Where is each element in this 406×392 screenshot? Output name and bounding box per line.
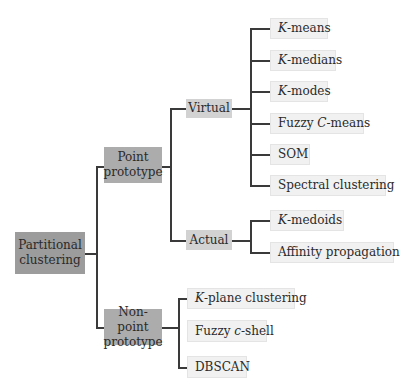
leaf-fuzzy-c-means: Fuzzy C-means <box>270 113 364 134</box>
root-node-partitional-clustering: Partitional clustering <box>15 232 85 274</box>
leaf-text: -modes <box>287 84 331 99</box>
leaf-text: -shell <box>241 324 274 339</box>
connector <box>250 91 270 93</box>
leaf-prefix: Fuzzy <box>278 116 317 131</box>
connector <box>170 108 186 110</box>
point-prototype-line2: prototype <box>103 165 162 180</box>
node-virtual: Virtual <box>186 99 232 118</box>
leaf-italic: K <box>278 213 287 228</box>
non-point-prototype-line1: Non-point <box>104 305 162 335</box>
actual-label: Actual <box>190 233 229 248</box>
connector <box>96 166 98 328</box>
leaf-italic: K <box>278 84 287 99</box>
leaf-prefix: Fuzzy <box>195 324 234 339</box>
connector <box>178 367 187 369</box>
root-label-line2: clustering <box>19 253 80 268</box>
connector <box>170 240 186 242</box>
connector <box>250 154 270 156</box>
connector <box>232 240 251 242</box>
leaf-text: -medoids <box>287 213 342 228</box>
leaf-som: SOM <box>270 144 310 165</box>
node-non-point-prototype: Non-point prototype <box>104 309 162 345</box>
point-prototype-line1: Point <box>117 150 148 165</box>
leaf-text: -plane clustering <box>204 291 307 306</box>
leaf-italic: K <box>278 53 287 68</box>
leaf-k-medians: K-medians <box>270 50 336 71</box>
connector <box>250 185 270 187</box>
connector <box>178 298 187 300</box>
leaf-text: -medians <box>287 53 342 68</box>
leaf-text: DBSCAN <box>195 360 250 375</box>
virtual-label: Virtual <box>188 101 230 116</box>
connector <box>250 252 270 254</box>
leaf-text: -means <box>287 21 331 36</box>
connector <box>232 108 251 110</box>
leaf-affinity-propagation: Affinity propagation <box>270 242 394 263</box>
leaf-text: -means <box>326 116 370 131</box>
connector <box>250 28 270 30</box>
leaf-text: Affinity propagation <box>278 245 400 260</box>
leaf-k-means: K-means <box>270 18 328 39</box>
non-point-prototype-line2: prototype <box>103 335 162 350</box>
connector <box>250 220 252 253</box>
node-point-prototype: Point prototype <box>104 147 162 183</box>
leaf-dbscan: DBSCAN <box>187 356 247 378</box>
connector <box>250 220 270 222</box>
connector <box>250 28 252 186</box>
leaf-fuzzy-c-shell: Fuzzy c-shell <box>187 320 267 342</box>
leaf-k-medoids: K-medoids <box>270 210 344 231</box>
leaf-italic: K <box>195 291 204 306</box>
leaf-italic: C <box>317 116 326 131</box>
connector <box>250 60 270 62</box>
leaf-text: SOM <box>278 147 308 162</box>
connector <box>96 327 104 329</box>
connector <box>170 108 172 241</box>
node-actual: Actual <box>186 230 232 250</box>
connector <box>178 298 180 368</box>
leaf-spectral-clustering: Spectral clustering <box>270 175 386 196</box>
leaf-italic: c <box>234 324 241 339</box>
leaf-k-modes: K-modes <box>270 81 328 102</box>
leaf-italic: K <box>278 21 287 36</box>
connector <box>162 327 179 329</box>
root-label-line1: Partitional <box>18 238 82 253</box>
leaf-k-plane-clustering: K-plane clustering <box>187 288 295 309</box>
connector <box>250 123 270 125</box>
leaf-text: Spectral clustering <box>278 178 394 193</box>
